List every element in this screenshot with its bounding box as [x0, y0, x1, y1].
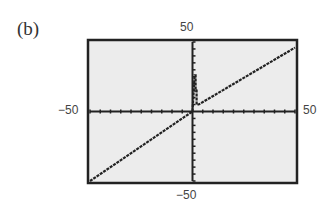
plot-area: [0, 0, 327, 209]
